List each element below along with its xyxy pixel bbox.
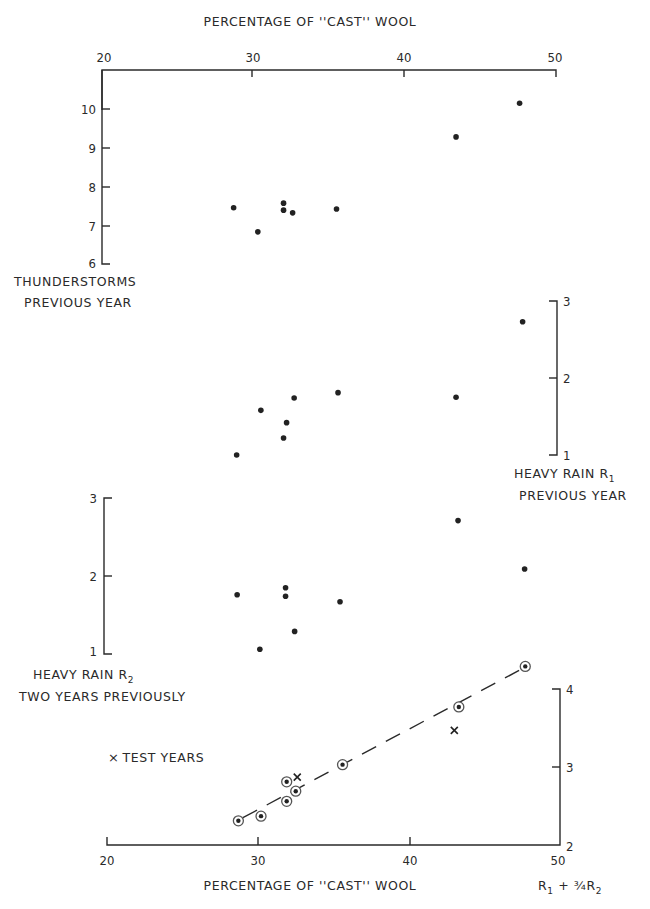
data-point	[281, 200, 287, 206]
combo-tick-3: 3	[566, 760, 573, 775]
thunder-axis-label-line2: PREVIOUS YEAR	[24, 295, 132, 310]
bottom-x-tick-20: 20	[100, 853, 115, 868]
r2-tick-2: 2	[90, 569, 97, 584]
thunderstorm-points	[231, 100, 523, 234]
r1-axis-label-line2: PREVIOUS YEAR	[519, 488, 627, 503]
r2-y-axis: 3 2 1 HEAVY RAIN R2 TWO YEARS PREVIOUSLY	[18, 491, 186, 704]
data-point	[281, 435, 287, 441]
data-point	[292, 629, 298, 635]
data-point	[453, 394, 459, 400]
top-x-tick-50: 50	[548, 50, 563, 65]
top-x-tick-30: 30	[246, 50, 261, 65]
data-point	[453, 134, 459, 140]
data-point	[290, 210, 296, 216]
data-point	[231, 205, 237, 211]
combined-axes: 20 30 40 50 4 3 2 PERCENTAGE OF ''CAST''…	[100, 682, 603, 896]
data-point	[335, 390, 341, 396]
r2-tick-1: 1	[90, 644, 97, 659]
r2-axis-label-line1: HEAVY RAIN R2	[33, 667, 134, 685]
data-point	[337, 599, 343, 605]
bottom-x-tick-30: 30	[251, 853, 266, 868]
r2-tick-3: 3	[90, 491, 97, 506]
data-point	[291, 395, 297, 401]
data-point	[284, 420, 290, 426]
combo-tick-4: 4	[566, 682, 573, 697]
thunder-tick-7: 7	[89, 219, 96, 234]
combined-points	[233, 661, 530, 825]
trend-line	[243, 668, 524, 818]
top-x-axis: PERCENTAGE OF ''CAST'' WOOL 20 30 40 50	[97, 14, 563, 110]
data-point	[234, 452, 240, 458]
thunder-tick-10: 10	[81, 102, 96, 117]
data-point	[255, 229, 261, 235]
data-point	[522, 566, 528, 572]
data-point	[455, 518, 461, 524]
top-x-tick-20: 20	[97, 50, 112, 65]
data-point	[334, 206, 340, 212]
test-year-x-marker	[451, 727, 458, 734]
data-point	[517, 100, 523, 106]
data-point	[283, 593, 289, 599]
combo-axis-label: R1 + ¾R2	[538, 878, 602, 896]
thunder-axis-label-line1: THUNDERSTORMS	[13, 274, 136, 289]
top-x-tick-40: 40	[397, 50, 412, 65]
thunder-tick-6: 6	[89, 256, 96, 271]
x-marker-icon: ×	[108, 750, 120, 765]
r1-points	[234, 319, 526, 458]
data-point	[281, 207, 287, 213]
data-point	[257, 647, 263, 653]
data-point	[520, 319, 526, 325]
data-point	[234, 592, 240, 598]
test-year-x-marker	[294, 774, 301, 781]
thunder-tick-8: 8	[89, 180, 96, 195]
bottom-axis-title: PERCENTAGE OF ''CAST'' WOOL	[204, 878, 417, 893]
r1-axis-label-line1: HEAVY RAIN R1	[514, 466, 615, 484]
legend-test-years: ×TEST YEARS	[108, 750, 204, 765]
data-point	[258, 408, 264, 414]
r2-axis-label-line2: TWO YEARS PREVIOUSLY	[18, 689, 186, 704]
combo-tick-2: 2	[566, 839, 573, 854]
thunder-tick-9: 9	[89, 141, 96, 156]
thunderstorms-y-axis: 10 9 8 7 6 THUNDERSTORMS PREVIOUS YEAR	[13, 70, 136, 310]
r1-tick-1: 1	[563, 448, 570, 463]
bottom-x-tick-40: 40	[403, 853, 418, 868]
r1-y-axis: 3 2 1 HEAVY RAIN R1 PREVIOUS YEAR	[514, 294, 627, 503]
r2-points	[234, 518, 527, 652]
scatter-chart: PERCENTAGE OF ''CAST'' WOOL 20 30 40 50 …	[0, 0, 650, 909]
bottom-x-tick-50: 50	[551, 853, 566, 868]
r1-tick-3: 3	[563, 294, 570, 309]
r1-tick-2: 2	[563, 371, 570, 386]
top-axis-title: PERCENTAGE OF ''CAST'' WOOL	[204, 14, 417, 29]
data-point	[283, 585, 289, 591]
